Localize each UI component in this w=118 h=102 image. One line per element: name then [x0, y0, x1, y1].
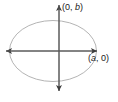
vertex-label-top: (0, b) — [62, 2, 83, 12]
vertex-label-right-suffix: , 0) — [96, 53, 109, 63]
ellipse-coordinate-figure: (0, b) (a, 0) — [0, 0, 118, 102]
vertex-label-top-suffix: ) — [80, 2, 83, 12]
figure-canvas — [0, 0, 118, 102]
vertex-label-top-prefix: (0, — [62, 2, 75, 12]
vertex-label-right: (a, 0) — [88, 53, 109, 63]
